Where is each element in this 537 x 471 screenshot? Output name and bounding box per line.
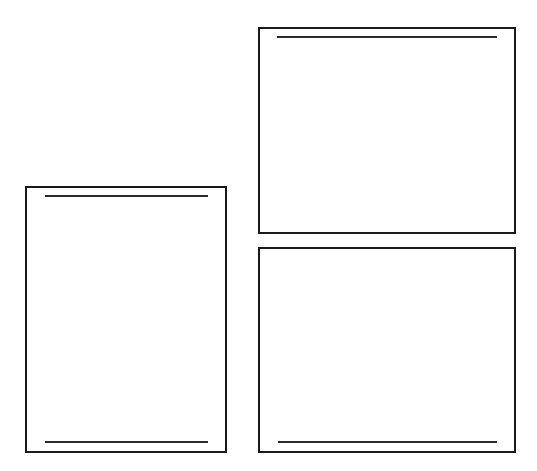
top-right-panel-top-rule xyxy=(277,36,497,38)
bottom-right-panel xyxy=(258,247,516,453)
left-panel-top-rule xyxy=(45,195,208,197)
top-right-panel xyxy=(258,27,516,234)
left-panel xyxy=(25,186,227,453)
left-panel-bottom-rule xyxy=(45,441,208,443)
bottom-right-panel-bottom-rule xyxy=(278,441,497,443)
